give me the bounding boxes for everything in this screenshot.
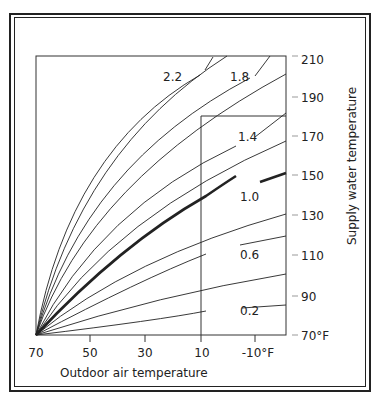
reset-curve-chart: 2.2 1.8 1.4 1.0 0.6 0.2 70 50 30 10 -10°… xyxy=(0,0,378,399)
curve-1.4-b xyxy=(255,113,286,137)
x-ticks xyxy=(90,335,255,342)
curve-label-2.2: 2.2 xyxy=(163,70,182,84)
x-axis-title: Outdoor air temperature xyxy=(60,366,208,380)
y-tick-210: 210 xyxy=(301,53,324,67)
curve-label-0.2: 0.2 xyxy=(240,304,259,318)
curve-0.6-a xyxy=(36,254,206,335)
x-tick-70: 70 xyxy=(28,346,43,360)
y-tick-190: 190 xyxy=(301,91,324,105)
y-tick-90: 90 xyxy=(301,290,316,304)
x-tick-30: 30 xyxy=(137,346,152,360)
y-tick-70: 70°F xyxy=(301,329,329,343)
curve-1.8-b xyxy=(255,56,270,76)
y-tick-170: 170 xyxy=(301,130,324,144)
x-tick-50: 50 xyxy=(82,346,97,360)
y-tick-150: 150 xyxy=(301,169,324,183)
design-box xyxy=(201,116,286,335)
curve-1.8-a xyxy=(36,78,250,335)
curve-0.2-a xyxy=(36,311,206,335)
y-ticks xyxy=(292,56,298,335)
y-tick-130: 130 xyxy=(301,209,324,223)
x-tick-minus10: -10°F xyxy=(242,346,275,360)
curve-2.0 xyxy=(36,56,227,335)
x-tick-10: 10 xyxy=(194,346,209,360)
curve-0.6-b xyxy=(240,236,286,245)
y-tick-110: 110 xyxy=(301,249,324,263)
y-axis-title: Supply water temperature xyxy=(345,87,359,245)
curve-label-1.4: 1.4 xyxy=(238,130,257,144)
curve-label-0.6: 0.6 xyxy=(240,248,259,262)
curve-label-1.0: 1.0 xyxy=(240,190,259,204)
curve-1.0-b xyxy=(260,173,286,182)
curve-label-1.8: 1.8 xyxy=(230,70,249,84)
